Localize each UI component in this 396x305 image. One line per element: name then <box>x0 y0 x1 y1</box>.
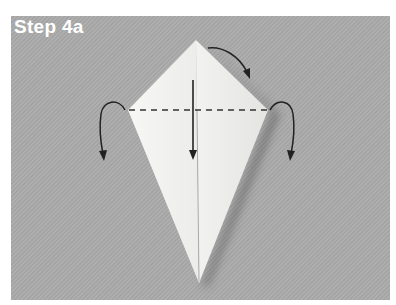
kite-paper <box>128 40 268 283</box>
step-panel: Step 4a <box>11 16 390 300</box>
left-curved-arrow-icon <box>99 102 125 161</box>
origami-diagram <box>11 16 390 300</box>
step-title: Step 4a <box>14 16 84 38</box>
